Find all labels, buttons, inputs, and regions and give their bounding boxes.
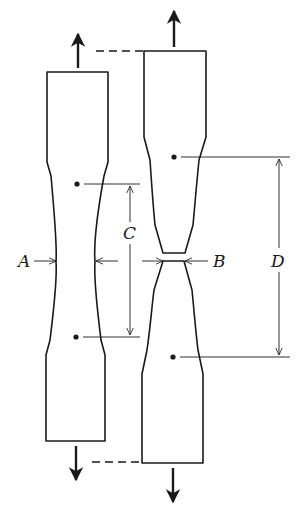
fractured-upper-half xyxy=(144,51,206,253)
original-specimen xyxy=(46,34,140,480)
fractured-gage-mark-top-dot xyxy=(171,154,176,159)
fractured-lower-half xyxy=(142,261,203,463)
gage-mark-bottom-dot xyxy=(73,334,78,339)
original-specimen-outline xyxy=(46,72,108,441)
label-b: B xyxy=(212,251,226,271)
label-a: A xyxy=(16,251,30,271)
gage-mark-top-dot xyxy=(74,181,79,186)
label-d: D xyxy=(270,251,285,271)
dimension-d: D xyxy=(270,159,285,355)
fractured-gage-mark-bottom-dot xyxy=(170,354,175,359)
dimension-c: C xyxy=(123,186,136,335)
tensile-specimen-diagram: C A B D xyxy=(0,0,302,512)
dimension-a: A xyxy=(16,251,118,271)
label-c: C xyxy=(123,223,136,243)
